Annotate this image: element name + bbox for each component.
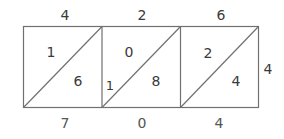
cell-upper-digit: 2 — [204, 46, 213, 60]
result-digit: 7 — [61, 116, 70, 130]
cell-upper-digit: 1 — [47, 45, 56, 59]
diagonal — [181, 27, 259, 108]
diagonal — [102, 27, 181, 108]
multiplicand-digit: 2 — [138, 8, 147, 22]
result-digit: 0 — [138, 116, 147, 130]
diagonal — [24, 27, 103, 108]
cell-lower-digit: 4 — [232, 74, 241, 88]
multiplier-digit: 4 — [264, 62, 273, 76]
cell-lower-digit: 6 — [74, 74, 83, 88]
lattice-diagram: 4 2 6 4 1 6 0 8 2 4 1 7 0 4 — [0, 0, 284, 139]
cell-upper-digit: 0 — [125, 45, 134, 59]
multiplicand-digit: 6 — [217, 8, 226, 22]
result-digit: 4 — [215, 116, 224, 130]
cell-lower-digit: 8 — [152, 74, 161, 88]
multiplicand-digit: 4 — [61, 8, 70, 22]
carry-digit: 1 — [106, 79, 114, 93]
